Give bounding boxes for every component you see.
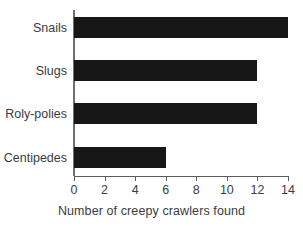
x-tick-label: 0 — [61, 183, 87, 197]
bar-centipedes — [74, 147, 166, 168]
x-tick-label: 2 — [92, 183, 118, 197]
category-label-snails: Snails — [0, 21, 67, 35]
bar-slugs — [74, 60, 257, 81]
bar-chart: SnailsSlugsRoly-poliesCentipedes 0246810… — [0, 0, 303, 226]
x-tick-mark — [257, 176, 258, 181]
x-tick-label: 12 — [244, 183, 270, 197]
x-tick-mark — [227, 176, 228, 181]
category-label-slugs: Slugs — [0, 64, 67, 78]
x-tick-mark — [166, 176, 167, 181]
category-label-roly-polies: Roly-polies — [0, 107, 67, 121]
bar-snails — [74, 17, 288, 38]
x-tick-mark — [196, 176, 197, 181]
x-tick-mark — [288, 176, 289, 181]
x-tick-mark — [105, 176, 106, 181]
x-tick-label: 8 — [183, 183, 209, 197]
x-tick-mark — [135, 176, 136, 181]
x-tick-label: 4 — [122, 183, 148, 197]
x-axis-title: Number of creepy crawlers found — [0, 204, 303, 218]
x-tick-mark — [74, 176, 75, 181]
x-tick-label: 6 — [153, 183, 179, 197]
plot-area — [74, 10, 288, 176]
bar-roly-polies — [74, 103, 257, 124]
category-label-centipedes: Centipedes — [0, 151, 67, 165]
x-tick-label: 14 — [275, 183, 301, 197]
x-tick-label: 10 — [214, 183, 240, 197]
